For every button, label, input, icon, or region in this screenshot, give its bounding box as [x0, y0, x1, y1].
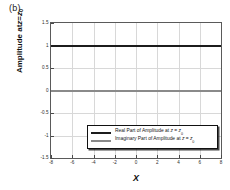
- x-tick-mark: [94, 155, 95, 158]
- x-tick-label: 0: [135, 161, 138, 166]
- y-axis-title-eq: =: [15, 16, 24, 21]
- y-tick-mark: [51, 23, 54, 24]
- x-tick-label: 2: [156, 161, 159, 166]
- legend-label-real: Real Part of Amplitude at z = z0: [115, 129, 183, 136]
- x-tick-mark: [157, 155, 158, 158]
- legend: Real Part of Amplitude at z = z0 Imagina…: [87, 125, 218, 149]
- x-axis-title: X: [50, 173, 222, 183]
- y-tick-mark: [51, 136, 54, 137]
- y-tick-label: 0.5: [42, 66, 48, 71]
- x-tick-label: -4: [91, 161, 95, 166]
- x-tick-label: 4: [177, 161, 180, 166]
- series-real-part: [51, 45, 221, 47]
- y-tick-mark: [51, 113, 54, 114]
- y-axis-title-prefix: Amplitude at: [15, 25, 24, 73]
- legend-label-real-prefix: Real Part of Amplitude at: [115, 128, 170, 133]
- y-tick-label: -1: [44, 133, 48, 138]
- x-tick-label: 6: [198, 161, 201, 166]
- y-tick-label: 1.5: [42, 21, 48, 26]
- x-tick-label: -6: [70, 161, 74, 166]
- x-tick-mark: [136, 155, 137, 158]
- y-tick-mark: [51, 158, 54, 159]
- gridline-horizontal: [51, 68, 221, 69]
- y-axis-title: Amplitude at z = z0: [12, 0, 26, 101]
- y-tick-label: 0: [46, 88, 49, 93]
- legend-swatch-imaginary-icon: [91, 140, 111, 142]
- y-tick-label: -0.5: [41, 111, 49, 116]
- y-tick-label: 1: [46, 43, 49, 48]
- legend-label-imag-prefix: Imaginary Part of Amplitude at: [115, 136, 182, 141]
- legend-swatch-real-icon: [91, 132, 111, 134]
- x-tick-label: -8: [49, 161, 53, 166]
- y-tick-mark: [51, 68, 54, 69]
- legend-label-imaginary: Imaginary Part of Amplitude at z = z0: [115, 137, 194, 144]
- y-axis-title-var2: z: [15, 12, 24, 16]
- y-axis-title-subscript: 0: [18, 9, 24, 12]
- plot-area: -8-6-4-2024681.510.50-0.5-1-1.5 Real Par…: [50, 22, 222, 159]
- legend-label-imag-subscript: 0: [192, 140, 194, 144]
- series-imaginary-part: [51, 90, 221, 92]
- x-tick-label: 8: [220, 161, 223, 166]
- x-tick-label: -2: [113, 161, 117, 166]
- figure-panel-b: (b) Amplitude at z = z0 X -8-6-4-2024681…: [0, 0, 230, 190]
- x-tick-mark: [179, 155, 180, 158]
- y-tick-label: -1.5: [41, 156, 49, 161]
- x-tick-mark: [115, 155, 116, 158]
- x-tick-mark: [221, 155, 222, 158]
- x-tick-mark: [200, 155, 201, 158]
- legend-label-real-subscript: 0: [181, 132, 183, 136]
- gridline-horizontal: [51, 113, 221, 114]
- x-tick-mark: [72, 155, 73, 158]
- y-axis-title-var1: z: [15, 21, 24, 25]
- legend-item-imaginary: Imaginary Part of Amplitude at z = z0: [91, 137, 214, 145]
